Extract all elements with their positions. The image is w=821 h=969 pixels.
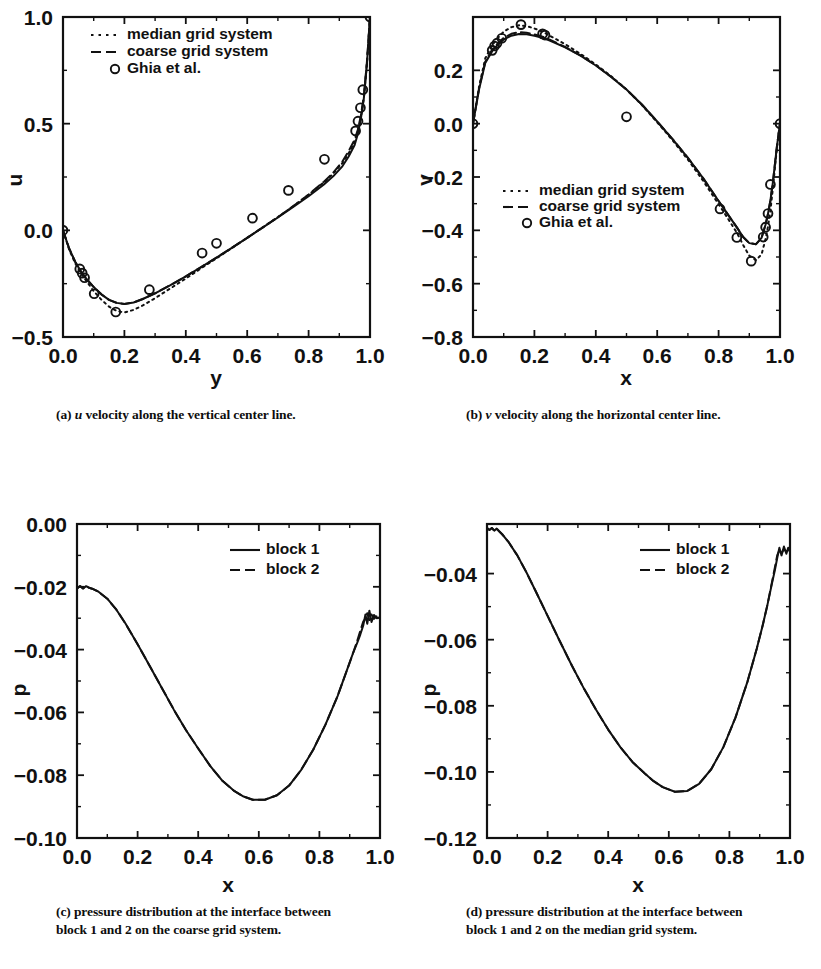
caption-d-line2: block 1 and 2 on the median grid system. xyxy=(466,921,816,939)
caption-b: (b) v velocity along the horizontal cent… xyxy=(466,406,816,424)
ghia-marker xyxy=(248,214,257,223)
subplot-c-pressure-coarse: 0.00.20.40.60.81.0−0.10−0.08−0.06−0.04−0… xyxy=(0,500,410,969)
y-tick-label: −0.06 xyxy=(14,701,67,724)
subplot-a-u-velocity: 0.00.20.40.60.81.0−0.50.00.51.0yumedian … xyxy=(0,0,410,500)
series-path xyxy=(487,528,790,792)
x-tick-label: 1.0 xyxy=(775,845,804,868)
legend-label: coarse grid system xyxy=(539,197,680,214)
ghia-marker xyxy=(198,249,207,258)
legend-label: Ghia et al. xyxy=(539,213,613,230)
y-tick-label: 0.2 xyxy=(434,59,463,82)
caption-a: (a) u velocity along the vertical center… xyxy=(56,406,396,424)
x-axis-label: x xyxy=(632,873,644,896)
ghia-marker xyxy=(622,112,631,121)
x-tick-label: 0.8 xyxy=(294,344,324,367)
caption-a-text: velocity along the vertical center line. xyxy=(82,407,295,422)
x-tick-label: 0.4 xyxy=(184,845,214,868)
legend-marker-circle xyxy=(111,65,119,73)
legend: median grid systemcoarse grid systemGhia… xyxy=(503,181,685,230)
plot-frame xyxy=(77,524,380,838)
x-tick-label: 1.0 xyxy=(765,344,794,367)
legend-label: block 2 xyxy=(676,560,729,577)
series-path xyxy=(63,17,370,304)
y-axis-label: p xyxy=(7,684,30,697)
legend: block 1block 2 xyxy=(230,540,320,577)
legend-label: median grid system xyxy=(127,25,273,42)
caption-d: (d) pressure distribution at the interfa… xyxy=(466,903,816,939)
legend-label: median grid system xyxy=(539,181,685,198)
legend-label: block 1 xyxy=(266,540,320,557)
y-tick-label: 0.0 xyxy=(24,219,53,242)
x-tick-label: 0.8 xyxy=(704,344,734,367)
y-tick-label: −0.02 xyxy=(14,576,67,599)
y-tick-label: 1.0 xyxy=(24,6,53,29)
y-tick-label: −0.04 xyxy=(424,563,477,586)
plot-series-group xyxy=(487,528,790,792)
y-tick-label: 0.5 xyxy=(24,113,54,136)
y-tick-label: −0.04 xyxy=(14,639,67,662)
series-path xyxy=(63,17,370,304)
x-tick-label: 0.2 xyxy=(520,344,549,367)
x-axis-label: x xyxy=(222,873,234,896)
x-axis-label: x xyxy=(620,366,632,389)
panel-b-canvas: 0.00.20.40.60.81.0−0.8−0.6−0.4−0.20.00.2… xyxy=(410,0,821,500)
y-tick-label: −0.12 xyxy=(424,827,477,850)
y-tick-label: 0.00 xyxy=(26,513,67,536)
x-tick-label: 0.6 xyxy=(654,845,683,868)
caption-c: (c) pressure distribution at the interfa… xyxy=(56,903,396,939)
legend-label: Ghia et al. xyxy=(127,59,201,76)
x-tick-label: 0.8 xyxy=(715,845,745,868)
y-tick-label: −0.4 xyxy=(422,219,464,242)
subplot-d-pressure-median: 0.00.20.40.60.81.0−0.12−0.10−0.08−0.06−0… xyxy=(410,500,821,969)
ghia-marker xyxy=(320,155,329,164)
legend-label: block 2 xyxy=(266,560,319,577)
x-tick-label: 1.0 xyxy=(365,845,394,868)
caption-a-prefix: (a) xyxy=(56,407,75,422)
x-tick-label: 0.2 xyxy=(123,845,152,868)
x-tick-label: 0.4 xyxy=(171,344,201,367)
panel-a-canvas: 0.00.20.40.60.81.0−0.50.00.51.0yumedian … xyxy=(0,0,410,500)
ghia-marker xyxy=(284,186,293,195)
y-tick-label: −0.10 xyxy=(424,761,477,784)
x-tick-label: 0.4 xyxy=(581,344,611,367)
y-tick-label: −0.5 xyxy=(12,326,54,349)
caption-c-line1: (c) pressure distribution at the interfa… xyxy=(56,903,396,921)
figure-root: 0.00.20.40.60.81.0−0.50.00.51.0yumedian … xyxy=(0,0,821,969)
x-tick-label: 0.8 xyxy=(305,845,335,868)
ghia-marker xyxy=(747,257,756,266)
y-tick-label: −0.06 xyxy=(424,629,477,652)
plot-series-group xyxy=(77,586,380,800)
ghia-marker xyxy=(358,85,367,94)
caption-b-text: velocity along the horizontal center lin… xyxy=(491,407,720,422)
series-path xyxy=(77,586,380,800)
y-tick-label: −0.6 xyxy=(422,273,463,296)
x-tick-label: 0.2 xyxy=(110,344,139,367)
legend-marker-circle xyxy=(523,219,531,227)
y-axis-label: v xyxy=(413,174,436,186)
caption-d-line1: (d) pressure distribution at the interfa… xyxy=(466,903,816,921)
y-tick-label: −0.8 xyxy=(422,326,464,349)
panel-c-canvas: 0.00.20.40.60.81.0−0.10−0.08−0.06−0.04−0… xyxy=(0,500,410,969)
plot-series-group xyxy=(469,20,785,265)
legend: block 1block 2 xyxy=(640,540,730,577)
x-tick-label: 0.6 xyxy=(244,845,273,868)
panel-d-canvas: 0.00.20.40.60.81.0−0.12−0.10−0.08−0.06−0… xyxy=(410,500,821,969)
ghia-marker xyxy=(212,239,221,248)
y-tick-label: 0.0 xyxy=(434,113,463,136)
y-tick-label: −0.08 xyxy=(424,695,477,718)
x-tick-label: 0.2 xyxy=(533,845,562,868)
x-tick-label: 0.4 xyxy=(594,845,624,868)
plot-frame xyxy=(487,524,790,838)
series-path xyxy=(487,528,790,792)
x-tick-label: 1.0 xyxy=(355,344,384,367)
legend-label: coarse grid system xyxy=(127,42,268,59)
legend-label: block 1 xyxy=(676,540,730,557)
y-tick-label: −0.08 xyxy=(14,764,67,787)
series-path xyxy=(63,17,370,312)
plot-frame xyxy=(63,17,370,337)
plot-frame xyxy=(473,17,780,337)
x-tick-label: 0.6 xyxy=(233,344,262,367)
y-tick-label: −0.10 xyxy=(14,827,67,850)
x-tick-label: 0.6 xyxy=(643,344,672,367)
ghia-marker xyxy=(356,103,365,112)
